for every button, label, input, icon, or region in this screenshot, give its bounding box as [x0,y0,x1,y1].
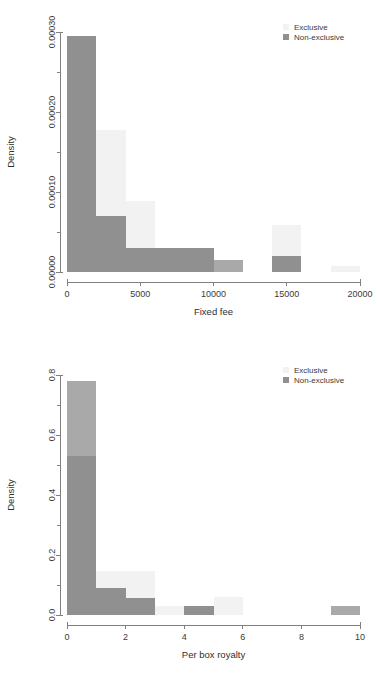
bar-exclusive-overhang [96,571,125,588]
y-tick-label: 0.0 [47,609,57,622]
bar-exclusive-overhang [126,571,155,598]
legend-swatch-non-exclusive [283,377,289,383]
x-tick-label: 5000 [130,289,150,299]
legend-label-non-exclusive: Non-exclusive [294,33,345,42]
bar-non-exclusive [67,36,96,272]
x-tick-label: 2 [123,632,128,642]
x-axis-line [67,279,360,282]
y-tick-label: 0.6 [47,429,57,442]
bar-non-exclusive [214,260,243,272]
per-box-royalty-histogram: 0.00.20.40.60.80246810Per box royaltyDen… [0,347,377,695]
x-tick-label: 4 [182,632,187,642]
y-tick-label: 0.2 [47,549,57,562]
bar-exclusive-overhang [126,201,155,248]
x-axis-title: Per box royalty [182,649,246,660]
bar-non-exclusive [184,248,213,272]
series-non-exclusive-bars [67,456,360,615]
legend-item-non-exclusive[interactable]: Non-exclusive [283,33,345,42]
y-tick-label: 0.00030 [47,16,57,49]
x-tick-label: 0 [64,632,69,642]
x-tick-label: 8 [299,632,304,642]
bar-exclusive-overhang [96,130,125,215]
y-tick-label: 0.8 [47,369,57,382]
bar-non-exclusive [331,606,360,615]
bar-non-exclusive [96,588,125,615]
y-tick-label: 0.4 [47,489,57,502]
legend-item-non-exclusive[interactable]: Non-exclusive [283,376,345,385]
x-axis-title: Fixed fee [194,306,233,317]
y-axis-line [60,32,63,272]
y-axis-line [60,375,63,615]
x-tick-label: 15000 [274,289,299,299]
legend-label-exclusive: Exclusive [294,23,328,32]
bar-non-exclusive [96,216,125,272]
y-axis-title: Density [5,479,16,511]
bar-exclusive-overhang [155,606,184,615]
bar-non-exclusive [155,248,184,272]
y-tick-label: 0.00020 [47,96,57,129]
fixed-fee-chart-panel: 0.000000.000100.000200.00030050001000015… [0,0,377,347]
bar-non-exclusive [126,598,155,615]
legend-swatch-non-exclusive [283,34,289,40]
bar-non-exclusive [126,248,155,272]
x-tick-label: 6 [240,632,245,642]
bar-exclusive-overhang [214,597,243,615]
x-tick-label: 10 [355,632,365,642]
legend-label-non-exclusive: Non-exclusive [294,376,345,385]
x-axis-line [67,622,360,625]
x-tick-label: 20000 [347,289,372,299]
x-tick-label: 10000 [201,289,226,299]
legend-item-exclusive[interactable]: Exclusive [283,366,328,375]
per-box-royalty-chart-panel: 0.00.20.40.60.80246810Per box royaltyDen… [0,347,377,694]
x-tick-label: 0 [64,289,69,299]
legend-item-exclusive[interactable]: Exclusive [283,23,328,32]
legend-swatch-exclusive [283,367,289,373]
bar-non-exclusive [67,456,96,615]
legend-label-exclusive: Exclusive [294,366,328,375]
bar-non-exclusive [272,256,301,272]
bar-non-exclusive [184,606,213,615]
legend-swatch-exclusive [283,24,289,30]
bar-exclusive-overhang [67,381,96,456]
y-axis-title: Density [5,136,16,168]
y-tick-label: 0.00010 [47,176,57,209]
y-tick-label: 0.00000 [47,256,57,289]
bar-exclusive-overhang [272,225,301,256]
bar-exclusive-overhang [331,266,360,272]
fixed-fee-histogram: 0.000000.000100.000200.00030050001000015… [0,0,377,347]
